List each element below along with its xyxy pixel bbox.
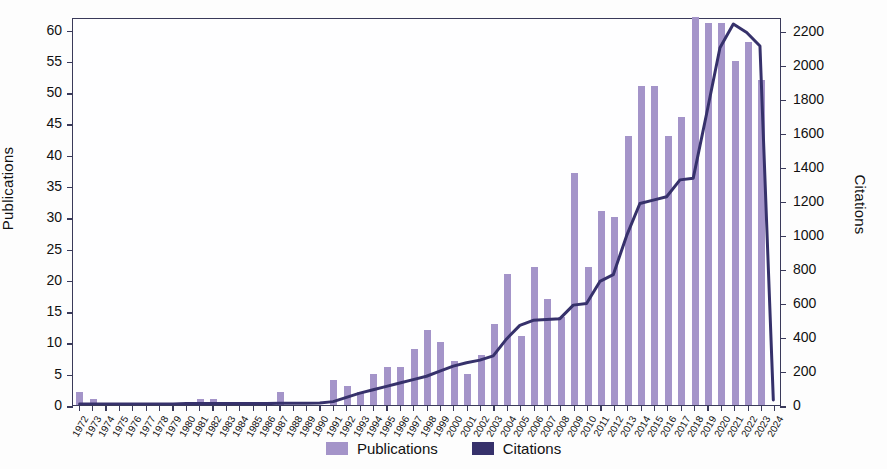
y-tick-right-2000: 2000: [793, 57, 841, 73]
x-tickmark-1991: [333, 406, 334, 411]
x-tickmark-2008: [560, 406, 561, 411]
y-tick-right-1800: 1800: [793, 91, 841, 107]
x-tickmark-1988: [293, 406, 294, 411]
legend-item-citations[interactable]: Citations: [472, 440, 561, 457]
legend-item-publications[interactable]: Publications: [326, 440, 438, 457]
x-tickmark-2004: [507, 406, 508, 411]
y-axis-right-title: Citations: [852, 174, 869, 234]
x-tickmark-2007: [547, 406, 548, 411]
citations-line: [73, 19, 780, 405]
y-tick-left-45: 45: [16, 115, 62, 131]
x-tickmark-1994: [373, 406, 374, 411]
x-tickmark-1978: [159, 406, 160, 411]
x-tickmark-2015: [654, 406, 655, 411]
y-tick-left-35: 35: [16, 178, 62, 194]
x-tickmark-1980: [186, 406, 187, 411]
y-tick-right-800: 800: [793, 261, 841, 277]
x-tickmark-1985: [253, 406, 254, 411]
x-tickmark-2011: [600, 406, 601, 411]
x-tickmark-2012: [614, 406, 615, 411]
legend-swatch-citations: [472, 442, 494, 455]
x-tickmark-1996: [400, 406, 401, 411]
x-tickmark-2024: [774, 406, 775, 411]
y-tickmark-right: [780, 406, 786, 408]
y-tick-right-400: 400: [793, 329, 841, 345]
x-tickmark-1993: [360, 406, 361, 411]
legend-swatch-publications: [326, 442, 348, 455]
legend-label-publications: Publications: [357, 440, 438, 457]
x-tickmark-2000: [453, 406, 454, 411]
x-tickmark-2010: [587, 406, 588, 411]
x-tickmark-1981: [199, 406, 200, 411]
y-tick-left-20: 20: [16, 272, 62, 288]
x-tickmark-1979: [172, 406, 173, 411]
publications-citations-chart: Publications Citations 05101520253035404…: [0, 0, 887, 469]
x-tickmark-1992: [346, 406, 347, 411]
y-tick-left-15: 15: [16, 303, 62, 319]
x-tickmark-1977: [146, 406, 147, 411]
y-tickmark-left: [67, 406, 73, 408]
y-tick-right-1400: 1400: [793, 159, 841, 175]
y-tick-left-10: 10: [16, 334, 62, 350]
y-tick-left-55: 55: [16, 53, 62, 69]
y-tick-right-0: 0: [793, 397, 841, 413]
x-tickmark-2003: [493, 406, 494, 411]
x-tickmark-1972: [79, 406, 80, 411]
y-tick-left-5: 5: [16, 366, 62, 382]
x-tickmark-1983: [226, 406, 227, 411]
y-tick-right-1200: 1200: [793, 193, 841, 209]
x-tickmark-1974: [105, 406, 106, 411]
x-tickmark-1987: [279, 406, 280, 411]
x-tickmark-1975: [119, 406, 120, 411]
chart-legend: PublicationsCitations: [0, 440, 887, 457]
x-tickmark-2006: [534, 406, 535, 411]
x-tickmark-2016: [667, 406, 668, 411]
x-tickmark-1982: [212, 406, 213, 411]
x-tickmark-2018: [694, 406, 695, 411]
x-tickmark-2021: [734, 406, 735, 411]
x-tickmark-2022: [748, 406, 749, 411]
x-tickmark-2002: [480, 406, 481, 411]
x-tickmark-1989: [306, 406, 307, 411]
y-tick-right-2200: 2200: [793, 23, 841, 39]
x-tickmark-1997: [413, 406, 414, 411]
y-tick-right-600: 600: [793, 295, 841, 311]
y-axis-left-title: Publications: [0, 147, 16, 230]
x-tickmark-1973: [92, 406, 93, 411]
x-tickmark-1998: [427, 406, 428, 411]
x-tickmark-2023: [761, 406, 762, 411]
y-tick-right-1000: 1000: [793, 227, 841, 243]
x-tickmark-2019: [707, 406, 708, 411]
x-tickmark-1990: [319, 406, 320, 411]
y-tick-left-30: 30: [16, 209, 62, 225]
x-tickmark-1984: [239, 406, 240, 411]
x-tickmark-2014: [641, 406, 642, 411]
y-tick-left-40: 40: [16, 147, 62, 163]
x-tickmark-2009: [574, 406, 575, 411]
x-tickmark-1976: [132, 406, 133, 411]
x-tickmark-2001: [467, 406, 468, 411]
y-tick-left-0: 0: [16, 397, 62, 413]
x-tickmark-2017: [681, 406, 682, 411]
y-tick-left-50: 50: [16, 84, 62, 100]
x-tickmark-2005: [520, 406, 521, 411]
legend-label-citations: Citations: [503, 440, 561, 457]
y-tick-left-25: 25: [16, 241, 62, 257]
y-tick-right-1600: 1600: [793, 125, 841, 141]
x-tickmark-1986: [266, 406, 267, 411]
x-tickmark-2020: [721, 406, 722, 411]
y-tick-right-200: 200: [793, 363, 841, 379]
x-tickmark-1995: [386, 406, 387, 411]
x-tickmark-1999: [440, 406, 441, 411]
x-tickmark-2013: [627, 406, 628, 411]
plot-area: [72, 18, 781, 406]
y-tick-left-60: 60: [16, 22, 62, 38]
